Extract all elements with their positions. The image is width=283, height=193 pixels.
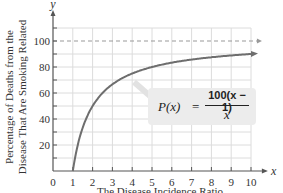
curve-arrow-icon	[251, 51, 258, 57]
y-tick-label: 100	[34, 35, 51, 47]
x-axis-symbol: x	[270, 164, 277, 178]
y-axis-label: Percentage of Deaths from the Disease Th…	[3, 17, 33, 177]
y-axis-label-line-2: Disease That Are Smoking Related	[16, 17, 29, 177]
x-axis-arrow-icon	[262, 169, 268, 174]
x-axis-label: The Disease Incidence Ratio	[80, 185, 240, 193]
formula-box: P(x) = 100(x − 1) x	[148, 88, 256, 125]
asymptote-arrow-icon	[257, 39, 262, 44]
x-tick-label: 10	[246, 176, 258, 188]
y-tick-label: 60	[39, 87, 51, 99]
formula-fraction-bar	[205, 105, 249, 106]
x-tick-label: 0	[50, 176, 56, 188]
formula-denominator: x	[204, 107, 250, 123]
y-tick-label: 80	[39, 61, 51, 73]
formula-lhs: P(x)	[158, 99, 180, 115]
y-axis-label-line-1: Percentage of Deaths from the	[3, 17, 16, 177]
y-tick-label: 20	[39, 139, 51, 151]
x-tick-label: 1	[70, 176, 76, 188]
formula-equals: =	[192, 99, 199, 115]
y-tick-label: 40	[39, 113, 51, 125]
y-axis-symbol: y	[49, 0, 56, 11]
